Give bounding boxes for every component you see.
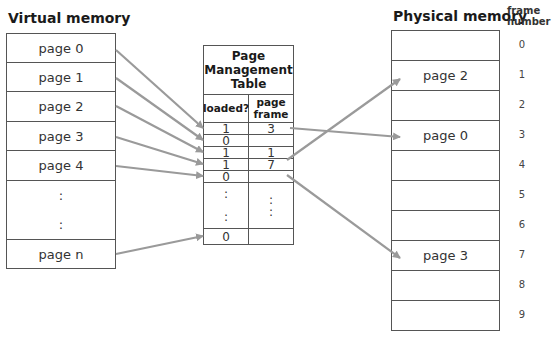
pmt-row-3-frame: 7 [249,159,293,171]
arrow-page4-to-pmt [116,166,203,176]
virtual-ellipsis-region: : : [7,181,115,240]
pmt-ellipsis-loaded: : : [204,183,249,229]
pmt-row-n-frame [249,229,293,244]
frame-number-5: 5 [512,189,532,200]
physical-frame-5 [392,181,499,211]
arrow-pmt-to-frame3 [290,128,400,137]
frame-number-7: 7 [512,249,532,260]
frame-number-0: 0 [512,39,532,50]
physical-memory-box: page 2 page 0 page 3 [391,30,500,331]
virtual-memory-title: Virtual memory [8,10,130,26]
virtual-memory-box: page 0 page 1 page 2 page 3 page 4 : : p… [6,33,116,269]
frame-number-label: frame number [507,5,551,27]
virtual-page-0: page 0 [7,34,115,63]
pmt-row-n-loaded: 0 [204,229,249,244]
vertical-ellipsis: : [59,188,63,203]
physical-frame-1: page 2 [392,61,499,91]
vertical-ellipsis: : [269,206,273,218]
virtual-page-1: page 1 [7,63,115,92]
pmt-row-4-loaded: 0 [204,171,249,183]
arrow-pmt-to-frame1 [287,79,400,160]
arrow-page2-to-pmt [116,106,203,152]
physical-frame-7: page 3 [392,241,499,271]
pmt-row-4-frame [249,171,293,183]
virtual-page-4: page 4 [7,151,115,181]
pmt-title: Page Management Table [204,46,293,95]
arrow-page0-to-pmt [116,50,203,128]
physical-frame-3: page 0 [392,121,499,151]
vertical-ellipsis: : [224,187,228,201]
frame-number-2: 2 [512,99,532,110]
frame-number-4: 4 [512,159,532,170]
arrow-pagen-to-pmt [116,236,203,254]
physical-frame-4 [392,151,499,181]
virtual-page-3: page 3 [7,122,115,151]
pmt-row-0-frame: 3 [249,123,293,135]
virtual-page-n: page n [7,240,115,268]
virtual-page-2: page 2 [7,92,115,122]
arrow-page3-to-pmt [116,137,203,164]
arrow-page1-to-pmt [116,78,203,140]
physical-frame-0 [392,31,499,61]
pmt-col-loaded-header: loaded? [204,94,249,123]
physical-frame-9 [392,301,499,330]
frame-number-8: 8 [512,279,532,290]
frame-number-1: 1 [512,69,532,80]
vertical-ellipsis: : [224,210,228,224]
page-management-table: Page Management Table loaded? page frame… [203,45,294,245]
pmt-ellipsis-frame: : : [249,183,293,229]
arrow-pmt-to-frame7 [287,175,400,258]
physical-frame-8 [392,271,499,301]
frame-number-3: 3 [512,129,532,140]
frame-number-6: 6 [512,219,532,230]
physical-frame-2 [392,91,499,121]
pmt-col-frame-header: page frame [249,94,293,123]
vertical-ellipsis: : [59,217,63,232]
vertical-ellipsis: : [269,194,273,206]
physical-frame-6 [392,211,499,241]
frame-number-9: 9 [512,309,532,320]
